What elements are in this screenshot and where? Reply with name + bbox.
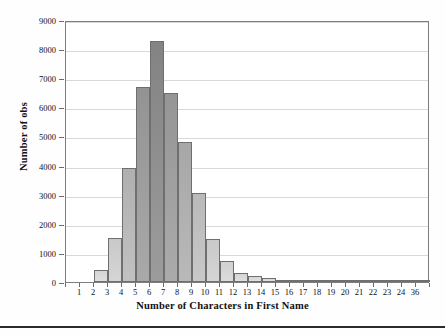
y-tick-mark: [59, 254, 64, 255]
x-tick-label: 13: [243, 288, 252, 297]
x-tick-label: 19: [327, 288, 336, 297]
y-tick-mark: [59, 283, 64, 284]
x-tick-label: 24: [397, 288, 406, 297]
y-tick-mark: [59, 79, 64, 80]
y-tick-mark: [59, 167, 64, 168]
x-tick-label: 9: [189, 288, 193, 297]
x-tick-label: 18: [313, 288, 322, 297]
histogram-bar: [332, 280, 346, 282]
histogram-bar: [234, 273, 248, 282]
x-tick-label: 3: [105, 288, 109, 297]
histogram-bar: [248, 276, 262, 282]
x-tick-label: 36: [411, 288, 420, 297]
x-tick-label: 16: [285, 288, 294, 297]
x-tick-label: 23: [383, 288, 392, 297]
histogram-bar: [108, 238, 122, 282]
y-tick-mark: [59, 196, 64, 197]
plot-area: [65, 21, 429, 283]
x-tick-mark: [65, 283, 66, 287]
histogram-bar: [318, 280, 332, 282]
y-tick-mark: [59, 50, 64, 51]
x-tick-label: 1: [77, 288, 81, 297]
x-tick-label: 8: [175, 288, 179, 297]
x-tick-label: 12: [229, 288, 238, 297]
histogram-bar: [402, 280, 416, 282]
histogram-bar: [262, 278, 276, 282]
bar-series: [66, 22, 428, 282]
x-tick-label: 22: [369, 288, 378, 297]
x-tick-label: 5: [133, 288, 137, 297]
bottom-divider: [0, 326, 445, 328]
histogram-bar: [94, 270, 108, 282]
histogram-bar: [276, 280, 290, 282]
y-tick-label: 6000: [39, 104, 56, 113]
histogram-bar: [360, 280, 374, 282]
x-tick-label: 21: [355, 288, 364, 297]
histogram-bar: [290, 280, 304, 282]
y-axis-title: Number of obs: [18, 67, 29, 207]
y-tick-label: 2000: [39, 221, 56, 230]
x-tick-label: 4: [119, 288, 123, 297]
histogram-bar: [346, 280, 360, 282]
histogram-bar: [374, 280, 388, 282]
histogram-bar: [178, 142, 192, 282]
histogram-bar: [192, 193, 206, 282]
x-tick-label: 2: [91, 288, 95, 297]
histogram-bar: [164, 93, 178, 282]
x-tick-label: 17: [299, 288, 308, 297]
histogram-bar: [150, 41, 164, 282]
histogram-figure: 0100020003000400050006000700080009000 Nu…: [0, 0, 445, 334]
y-tick-label: 7000: [39, 75, 56, 84]
x-tick-label: 11: [215, 288, 223, 297]
y-tick-label: 1000: [39, 250, 56, 259]
y-tick-mark: [59, 225, 64, 226]
histogram-bar: [416, 280, 430, 282]
x-tick-label: 15: [271, 288, 280, 297]
x-tick-label: 14: [257, 288, 266, 297]
y-tick-label: 5000: [39, 133, 56, 142]
y-tick-label: 9000: [39, 17, 56, 26]
x-tick-label: 7: [161, 288, 165, 297]
histogram-bar: [122, 168, 136, 282]
y-tick-label: 0: [52, 279, 56, 288]
histogram-bar: [136, 87, 150, 282]
x-tick-label: 20: [341, 288, 350, 297]
y-tick-label: 8000: [39, 46, 56, 55]
y-tick-mark: [59, 108, 64, 109]
y-tick-label: 3000: [39, 191, 56, 200]
x-tick-mark: [429, 283, 430, 287]
y-tick-mark: [59, 137, 64, 138]
x-axis-title: Number of Characters in First Name: [0, 300, 445, 311]
y-tick-mark: [59, 21, 64, 22]
y-tick-label: 4000: [39, 162, 56, 171]
histogram-bar: [206, 239, 220, 282]
histogram-bar: [220, 261, 234, 282]
histogram-bar: [304, 280, 318, 282]
x-tick-label: 10: [201, 288, 210, 297]
x-tick-label: 6: [147, 288, 151, 297]
y-axis: 0100020003000400050006000700080009000: [0, 21, 65, 283]
histogram-bar: [388, 280, 402, 282]
